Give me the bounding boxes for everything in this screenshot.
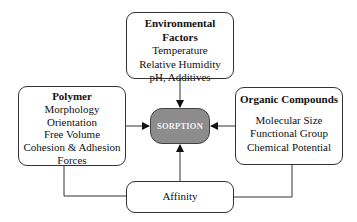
environmental-item: pH, Additives bbox=[127, 71, 233, 85]
organic-item: Functional Group bbox=[236, 127, 342, 141]
sorption-node: SORPTION bbox=[150, 108, 210, 144]
environmental-factors-title: Environmental Factors bbox=[127, 17, 233, 44]
organic-compounds-title: Organic Compounds bbox=[236, 93, 342, 107]
polymer-item: Morphology bbox=[19, 103, 125, 116]
sorption-label: SORPTION bbox=[157, 121, 203, 131]
environmental-item: Relative Humidity bbox=[127, 58, 233, 72]
organic-item: Chemical Potential bbox=[236, 141, 342, 155]
polymer-title: Polymer bbox=[19, 90, 125, 103]
environmental-factors-box: Environmental Factors Temperature Relati… bbox=[126, 12, 234, 79]
polymer-item: Free Volume bbox=[19, 128, 125, 141]
affinity-label: Affinity bbox=[162, 190, 197, 204]
environmental-item: Temperature bbox=[127, 44, 233, 58]
polymer-item: Forces bbox=[19, 154, 125, 167]
polymer-item: Cohesion & Adhesion bbox=[19, 141, 125, 154]
affinity-box: Affinity bbox=[126, 181, 234, 213]
organic-item: Molecular Size bbox=[236, 114, 342, 128]
polymer-item: Orientation bbox=[19, 116, 125, 129]
organic-compounds-box: Organic Compounds Molecular Size Functio… bbox=[235, 87, 343, 165]
polymer-box: Polymer Morphology Orientation Free Volu… bbox=[18, 86, 126, 166]
